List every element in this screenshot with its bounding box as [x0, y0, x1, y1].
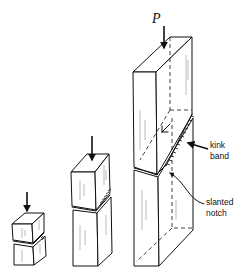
specimen-small: [12, 192, 46, 265]
kink-band-annotation: kink band: [188, 140, 229, 161]
slanted-notch-label-line1: slanted: [206, 197, 234, 207]
kink-band-label-line1: kink: [210, 140, 226, 150]
specimen-medium: [71, 136, 112, 266]
kink-band-label-line2: band: [210, 151, 229, 161]
size-effect-diagram: P kink band slanted notch: [0, 0, 249, 280]
specimen-large: P: [133, 11, 194, 266]
slanted-notch-label-line2: notch: [206, 208, 227, 218]
load-label-p: P: [151, 11, 161, 26]
